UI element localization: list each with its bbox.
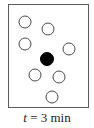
particle-layer bbox=[0, 0, 94, 128]
filled-particle bbox=[41, 53, 54, 66]
time-label: t = 3 min bbox=[0, 110, 94, 126]
open-particle bbox=[19, 16, 31, 28]
open-particle bbox=[63, 43, 75, 55]
open-particle bbox=[19, 38, 31, 50]
time-value: 3 min bbox=[41, 110, 71, 125]
open-particle bbox=[42, 23, 54, 35]
open-particle bbox=[46, 91, 58, 103]
open-particle bbox=[29, 69, 41, 81]
open-particle bbox=[53, 71, 65, 83]
equals-sign: = bbox=[27, 110, 41, 125]
